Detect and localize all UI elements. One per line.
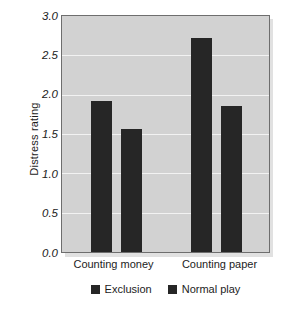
legend-label-normal-play: Normal play bbox=[182, 283, 241, 295]
y-axis-tick-labels: 0.0 0.5 1.0 1.5 2.0 2.5 3.0 bbox=[26, 0, 58, 318]
y-tick-3: 1.5 bbox=[28, 128, 58, 140]
plot-area bbox=[61, 15, 270, 253]
y-tick-6: 3.0 bbox=[28, 10, 58, 22]
gridline-2.5 bbox=[62, 55, 269, 56]
gridline-2.0 bbox=[62, 95, 269, 96]
y-tick-4: 2.0 bbox=[28, 88, 58, 100]
y-tick-1: 0.5 bbox=[28, 207, 58, 219]
legend-item-exclusion[interactable]: Exclusion bbox=[91, 283, 152, 295]
bar-counting-paper-exclusion bbox=[191, 38, 212, 252]
bar-counting-money-exclusion bbox=[91, 101, 112, 252]
legend-item-normal-play[interactable]: Normal play bbox=[168, 283, 241, 295]
bar-counting-money-normal-play bbox=[121, 129, 142, 252]
bar-chart-figure: Distress rating 0.0 0.5 1.0 1.5 2.0 2.5 … bbox=[0, 0, 298, 318]
legend-label-exclusion: Exclusion bbox=[105, 283, 152, 295]
y-tick-2: 1.0 bbox=[28, 168, 58, 180]
chart-legend: Exclusion Normal play bbox=[61, 283, 270, 295]
x-tick-label-counting-paper: Counting paper bbox=[152, 258, 287, 270]
legend-swatch-icon bbox=[91, 285, 100, 294]
bar-counting-paper-normal-play bbox=[221, 106, 242, 252]
legend-swatch-icon bbox=[168, 285, 177, 294]
y-tick-5: 2.5 bbox=[28, 49, 58, 61]
